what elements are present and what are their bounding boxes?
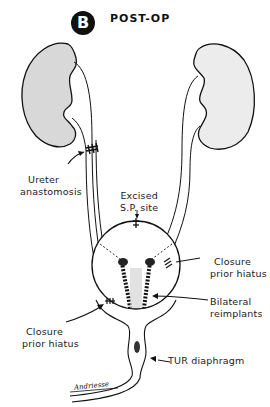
label-line-1: Bilateral (210, 296, 263, 308)
label-line-2: S.P. site (120, 202, 158, 214)
figure-title: POST-OP (110, 12, 170, 25)
closure-left-sutures (105, 298, 115, 304)
right-ureter-outer (160, 76, 198, 250)
label-line-2: prior hiatus (210, 268, 267, 280)
label-line-1: Ureter (20, 174, 82, 186)
panel-letter-badge: B (71, 11, 95, 35)
label-tur-diaphragm: TUR diaphragm (168, 355, 245, 367)
label-line-2: prior hiatus (22, 338, 79, 350)
label-line-1: Closure (210, 256, 267, 268)
label-line-2: reimplants (210, 308, 263, 320)
label-closure-prior-hiatus-left: Closure prior hiatus (22, 326, 79, 350)
label-line-1: Excised (120, 190, 158, 202)
label-excised-sp-site: Excised S.P. site (120, 190, 158, 214)
post-op-diagram: B POST-OP Ureter anastomosis Excised S.P… (0, 0, 270, 407)
label-ureter-anastomosis: Ureter anastomosis (20, 174, 82, 198)
label-bilateral-reimplants: Bilateral reimplants (210, 296, 263, 320)
label-line-1: Closure (22, 326, 79, 338)
right-ureter-inner (170, 126, 200, 255)
right-kidney (194, 44, 255, 149)
tur-diaphragm (134, 341, 140, 353)
label-closure-prior-hiatus-right: Closure prior hiatus (210, 256, 267, 280)
left-kidney (22, 43, 76, 147)
label-line-2: anastomosis (20, 186, 82, 198)
